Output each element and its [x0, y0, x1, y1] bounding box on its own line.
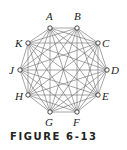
vertex-label-G: G — [45, 116, 53, 128]
edge-C-F — [77, 43, 98, 112]
vertex-A — [48, 26, 52, 30]
edge-G-J — [20, 70, 50, 112]
vertex-label-K: K — [14, 37, 23, 49]
vertex-label-E: E — [101, 90, 109, 102]
vertex-label-A: A — [45, 10, 53, 22]
edge-B-K — [28, 28, 77, 43]
vertex-label-B: B — [74, 10, 81, 22]
vertex-H — [26, 93, 30, 97]
vertex-C — [96, 41, 100, 45]
vertex-label-H: H — [14, 90, 24, 102]
edge-E-J — [20, 70, 98, 95]
edge-F-K — [28, 43, 77, 112]
vertex-F — [75, 110, 79, 114]
vertex-label-D: D — [110, 64, 119, 76]
vertex-label-J: J — [9, 64, 15, 76]
vertex-label-C: C — [102, 37, 110, 49]
edge-B-E — [77, 28, 98, 95]
edge-B-J — [20, 28, 77, 70]
complete-graph-diagram: ABCDEFGHJK — [0, 0, 127, 150]
edge-G-H — [28, 95, 50, 112]
edge-A-K — [28, 28, 50, 43]
edge-F-J — [20, 70, 77, 112]
vertex-label-F: F — [72, 116, 80, 128]
vertex-J — [18, 68, 22, 72]
vertex-D — [105, 68, 109, 72]
figure-caption: FIGURE 6-13 — [10, 131, 98, 142]
vertex-E — [96, 93, 100, 97]
vertex-B — [75, 26, 79, 30]
edge-B-C — [77, 28, 98, 43]
edge-G-K — [28, 43, 50, 112]
vertex-K — [26, 41, 30, 45]
graph-edges — [20, 28, 107, 112]
vertex-G — [48, 110, 52, 114]
edge-A-D — [50, 28, 107, 70]
